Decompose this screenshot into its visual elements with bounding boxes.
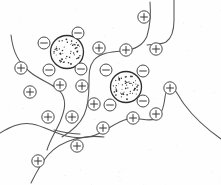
stipple-dot bbox=[53, 53, 54, 54]
noise-speck bbox=[152, 183, 153, 184]
noise-speck bbox=[65, 175, 66, 176]
noise-speck bbox=[31, 171, 32, 172]
noise-speck bbox=[165, 120, 166, 121]
noise-speck bbox=[19, 45, 20, 46]
stipple-dot bbox=[67, 42, 68, 43]
stipple-dot bbox=[120, 93, 121, 94]
stipple-dot bbox=[132, 76, 133, 77]
positive-charge-icon bbox=[150, 108, 162, 120]
stipple-dot bbox=[125, 83, 127, 85]
stipple-dot bbox=[130, 83, 131, 84]
positive-charge-icon bbox=[164, 82, 176, 94]
stipple-dot bbox=[137, 85, 139, 87]
noise-speck bbox=[155, 122, 156, 123]
noise-speck bbox=[160, 20, 161, 21]
stipple-dot bbox=[114, 91, 116, 93]
noise-speck bbox=[183, 73, 184, 74]
stipple-dot bbox=[56, 54, 57, 55]
noise-speck bbox=[183, 23, 184, 24]
noise-speck bbox=[173, 60, 174, 61]
stipple-dot bbox=[62, 50, 64, 52]
noise-speck bbox=[104, 35, 105, 36]
stipple-dot bbox=[63, 62, 64, 63]
negative-charge-icon bbox=[100, 64, 112, 76]
noise-speck bbox=[32, 35, 33, 36]
stipple-dot bbox=[54, 49, 55, 50]
stipple-dot bbox=[70, 53, 71, 54]
noise-speck bbox=[127, 168, 128, 169]
stipple-dot bbox=[134, 88, 136, 90]
noise-speck bbox=[94, 119, 95, 120]
stipple-dot bbox=[56, 49, 57, 50]
noise-speck bbox=[80, 169, 81, 170]
noise-speck bbox=[201, 26, 202, 27]
stipple-dot bbox=[115, 87, 116, 88]
noise-speck bbox=[209, 25, 210, 26]
noise-speck bbox=[142, 46, 143, 47]
stipple-dot bbox=[76, 42, 77, 43]
noise-speck bbox=[161, 118, 162, 119]
polyelectrolyte-colloid-diagram bbox=[0, 0, 221, 185]
stipple-dot bbox=[60, 61, 61, 62]
noise-speck bbox=[215, 63, 216, 64]
noise-speck bbox=[47, 96, 48, 97]
noise-speck bbox=[213, 94, 214, 95]
noise-speck bbox=[80, 24, 81, 25]
positive-charge-icon bbox=[42, 111, 54, 123]
noise-speck bbox=[181, 135, 182, 136]
positive-charge-icon bbox=[76, 80, 88, 92]
stipple-dot bbox=[56, 46, 57, 47]
noise-speck bbox=[181, 103, 182, 104]
noise-speck bbox=[40, 125, 41, 126]
stipple-dot bbox=[118, 83, 119, 84]
noise-speck bbox=[63, 110, 64, 111]
stipple-dot bbox=[129, 83, 130, 84]
noise-speck bbox=[134, 138, 135, 139]
noise-speck bbox=[154, 132, 155, 133]
stipple-dot bbox=[126, 82, 127, 83]
stipple-dot bbox=[68, 62, 70, 64]
noise-speck bbox=[129, 169, 130, 170]
noise-speck bbox=[86, 19, 87, 20]
noise-speck bbox=[78, 109, 79, 110]
stipple-dot bbox=[127, 87, 128, 88]
noise-speck bbox=[121, 169, 122, 170]
stipple-dot bbox=[79, 55, 80, 56]
stipple-dot bbox=[132, 85, 133, 86]
stipple-dot bbox=[115, 80, 116, 81]
stipple-dot bbox=[73, 52, 74, 53]
stipple-dot bbox=[70, 44, 71, 45]
stipple-dot bbox=[121, 96, 122, 97]
noise-speck bbox=[74, 10, 75, 11]
stipple-dot bbox=[130, 93, 131, 94]
noise-speck bbox=[8, 43, 9, 44]
noise-speck bbox=[119, 172, 120, 173]
positive-charge-icon bbox=[66, 111, 78, 123]
stipple-dot bbox=[122, 89, 123, 90]
noise-speck bbox=[11, 145, 12, 146]
noise-speck bbox=[131, 127, 132, 128]
stipple-dot bbox=[53, 51, 55, 53]
noise-speck bbox=[93, 41, 94, 42]
stipple-dot bbox=[116, 85, 117, 86]
noise-speck bbox=[109, 137, 110, 138]
stipple-dot bbox=[77, 58, 78, 59]
noise-speck bbox=[2, 29, 3, 30]
stipple-dot bbox=[59, 40, 60, 41]
stipple-dot bbox=[128, 81, 129, 82]
noise-speck bbox=[117, 104, 118, 105]
stipple-dot bbox=[71, 40, 73, 42]
noise-speck bbox=[177, 119, 178, 120]
noise-speck bbox=[147, 51, 148, 52]
noise-speck bbox=[166, 184, 167, 185]
noise-speck bbox=[214, 5, 215, 6]
stipple-dot bbox=[70, 51, 71, 52]
noise-speck bbox=[32, 111, 33, 112]
stipple-dot bbox=[79, 46, 80, 47]
noise-speck bbox=[151, 106, 152, 107]
noise-speck bbox=[1, 20, 2, 21]
noise-speck bbox=[203, 57, 204, 58]
noise-speck bbox=[195, 148, 196, 149]
noise-speck bbox=[117, 63, 118, 64]
noise-speck bbox=[6, 102, 7, 103]
